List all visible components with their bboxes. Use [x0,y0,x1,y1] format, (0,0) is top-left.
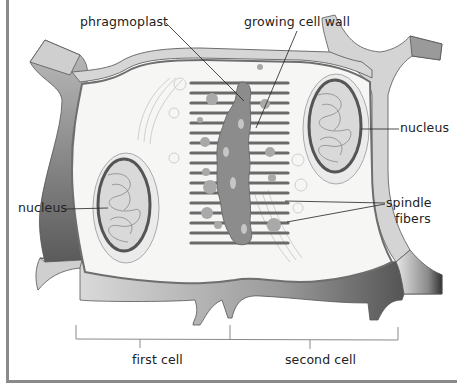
label-first-cell: first cell [132,352,183,367]
label-nucleus-left: nucleus [18,200,67,215]
nucleus-right [303,74,369,184]
label-second-cell: second cell [285,352,356,367]
cell-brackets [76,325,398,349]
cell-division-illustration [0,0,457,384]
label-phragmoplast: phragmoplast [80,14,168,29]
label-growing-cell-wall: growing cell wall [244,14,350,29]
label-spindle: spindle [386,195,432,210]
label-nucleus-right: nucleus [400,120,449,135]
diagram-frame: phragmoplast growing cell wall nucleus n… [0,0,457,384]
label-fibers: fibers [395,211,431,226]
